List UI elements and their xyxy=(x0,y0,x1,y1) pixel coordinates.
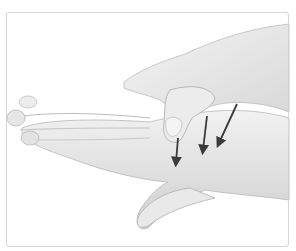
fingertip-middle xyxy=(19,96,37,108)
hand-illustration xyxy=(0,0,296,251)
finger-crease-1 xyxy=(12,114,150,119)
fingertip-index xyxy=(7,110,25,126)
receiving-thumb xyxy=(137,188,215,227)
receiving-hand xyxy=(7,96,289,229)
fingertip-ring xyxy=(21,131,39,145)
